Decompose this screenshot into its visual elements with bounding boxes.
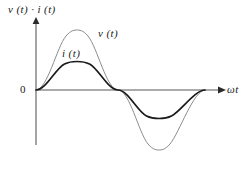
- y-axis-arrowhead: [33, 17, 40, 24]
- x-axis-label: ωt: [227, 83, 239, 95]
- curve-label-v-of-t: v (t): [98, 27, 118, 39]
- plot-canvas: [0, 0, 250, 170]
- y-axis-label: v (t) · i (t): [8, 3, 56, 15]
- origin-label: 0: [20, 83, 26, 95]
- figure-container: v (t) · i (t) ωt 0 v (t) i (t): [0, 0, 250, 170]
- x-axis-arrowhead: [218, 86, 226, 93]
- curve-label-i-of-t: i (t): [62, 47, 80, 59]
